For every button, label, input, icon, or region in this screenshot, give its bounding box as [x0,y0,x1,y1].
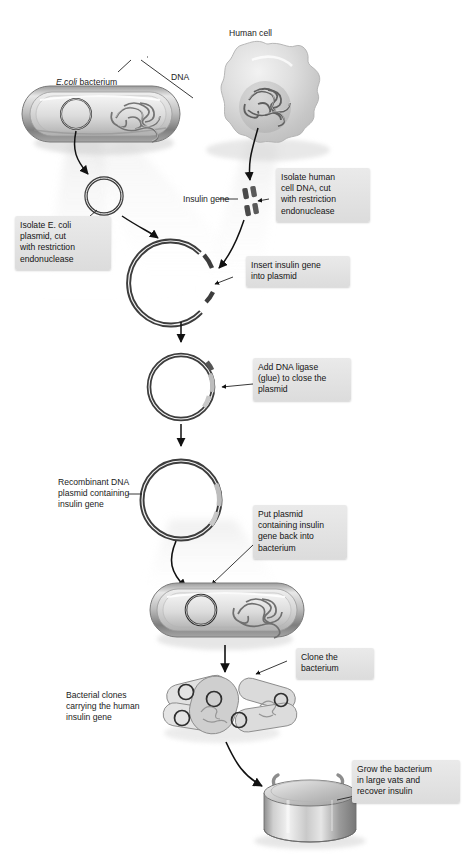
dna-leader-line [118,60,131,72]
insulin-gene-label: Insulin gene [183,194,229,205]
fermentation-vat-icon [254,775,366,849]
callout-clone-bacterium[interactable]: Clone the bacterium [296,648,374,679]
callout-put-plasmid-back[interactable]: Put plasmid containing insulin gene back… [253,505,347,559]
ecoli-rest-text: bacterium [77,77,117,87]
human-cell-icon [206,41,330,161]
callout-add-dna-ligase[interactable]: Add DNA ligase (glue) to close the plasm… [253,358,351,401]
callout-insert-insulin-gene[interactable]: Insert insulin gene into plasmid [246,256,350,287]
callout-isolate-plasmid[interactable]: Isolate E. coli plasmid, cut with restri… [15,216,111,270]
ecoli-italic-text: E.coli [56,77,77,87]
ecoli-bacterium-icon [22,86,180,155]
transformed-bacterium-icon [150,583,304,650]
recombinant-plasmid-label: Recombinant DNA plasmid containing insul… [58,477,129,510]
flow-arrow-icon [226,742,262,786]
ligated-plasmid-ring-icon [149,355,213,419]
bacterial-clones-label: Bacterial clones carrying the human insu… [66,690,140,723]
illustration-layer [0,0,463,864]
bacterial-clone-cluster-icon [162,671,299,743]
ecoli-bacterium-label: E.coli bacterium [56,66,117,88]
callout-isolate-human-dna[interactable]: Isolate human cell DNA, cut with restric… [276,168,370,222]
dna-label: DNA [171,72,189,83]
clone-leader [256,661,287,674]
insulin-recombinant-dna-diagram: E.coli bacterium DNA Human cell Insulin … [0,0,463,864]
callout-grow-in-vats[interactable]: Grow the bacterium in large vats and rec… [352,760,460,803]
human-cell-label: Human cell [229,28,272,39]
